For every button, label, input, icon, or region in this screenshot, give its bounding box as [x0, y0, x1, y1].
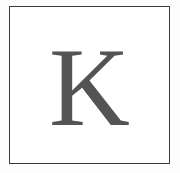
letter-card: K	[9, 6, 170, 164]
letter-glyph: K	[10, 7, 169, 163]
